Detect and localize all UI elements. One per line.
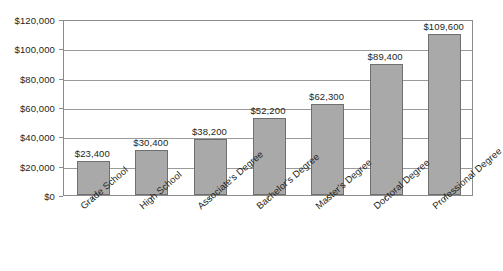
- y-axis-tick-label: $0: [44, 191, 55, 202]
- bar-value-label: $30,400: [111, 137, 191, 148]
- y-axis-tick-label: $20,000: [20, 161, 55, 172]
- y-axis-tick-label: $100,000: [15, 44, 55, 55]
- bar[interactable]: [370, 64, 403, 195]
- y-axis-tick-label: $120,000: [15, 15, 55, 26]
- bar-value-label: $38,200: [169, 126, 249, 137]
- bar-value-label: $23,400: [52, 148, 132, 159]
- gridline: [64, 80, 472, 81]
- y-axis-tick-label: $80,000: [20, 73, 55, 84]
- bar-value-label: $52,200: [228, 105, 308, 116]
- bar-value-label: $89,400: [345, 51, 425, 62]
- bar-value-label: $109,600: [404, 21, 484, 32]
- bar-value-label: $62,300: [287, 91, 367, 102]
- y-axis-tick-label: $60,000: [20, 103, 55, 114]
- y-axis: $0$20,000$40,000$60,000$80,000$100,000$1…: [0, 0, 60, 271]
- bar[interactable]: [428, 34, 461, 195]
- y-axis-tick-mark: [59, 196, 63, 197]
- y-axis-tick-label: $40,000: [20, 132, 55, 143]
